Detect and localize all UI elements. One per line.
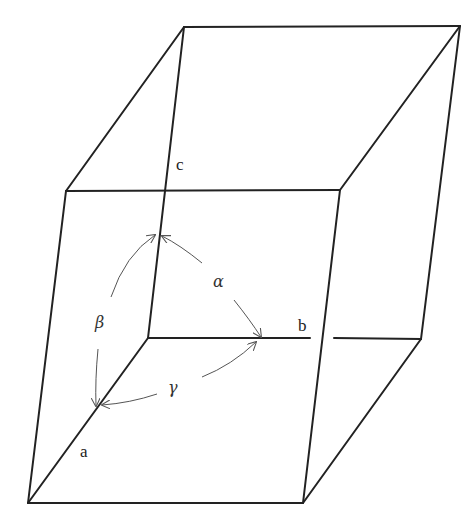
edge-front-right-vertical — [303, 190, 340, 503]
angle-arcs — [96, 235, 261, 406]
beta-arc-to-c — [111, 235, 155, 297]
edge-top-left — [66, 27, 184, 191]
axis-label-c: c — [176, 155, 184, 174]
axis-b-segment-2 — [334, 338, 421, 339]
alpha-arc-to-b — [234, 300, 261, 337]
edge-bottom-right — [303, 339, 421, 503]
cell-edges — [28, 26, 460, 503]
edge-top-front — [66, 190, 340, 191]
alpha-arc-to-c — [162, 236, 202, 263]
unit-cell-diagram: c b a α β γ — [0, 0, 471, 529]
angle-label-beta: β — [94, 313, 104, 332]
angle-label-alpha: α — [213, 272, 224, 291]
axis-label-b: b — [298, 316, 307, 335]
edge-top-back — [184, 26, 460, 27]
axis-c — [148, 27, 184, 338]
edge-front-left-vertical — [28, 191, 66, 503]
axis-label-a: a — [80, 442, 88, 461]
gamma-arc-to-a — [102, 394, 157, 405]
cell-axes — [28, 27, 421, 503]
beta-arc-to-a — [96, 349, 98, 406]
angle-label-gamma: γ — [168, 378, 178, 397]
gamma-arc-to-b — [202, 342, 256, 377]
